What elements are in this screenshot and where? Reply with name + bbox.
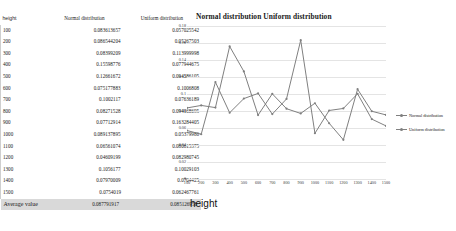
y-tick-label: 0.16	[179, 41, 186, 45]
x-tick-label: 500	[241, 181, 247, 185]
series-point	[371, 110, 373, 112]
legend-swatch-icon	[396, 127, 407, 132]
column-header-normal: Normal distribution	[47, 13, 124, 25]
row-height-value: 700	[1, 94, 47, 106]
x-tick-label: 200	[198, 181, 204, 185]
row-height-value: 400	[1, 59, 47, 71]
series-point	[300, 39, 302, 41]
series-point	[328, 109, 330, 111]
plot-area: 0.180.160.140.120.10.080.060.040.020 100…	[170, 26, 386, 194]
row-normal-value: 0.08271528	[47, 106, 124, 118]
x-axis-title: height	[190, 198, 217, 209]
row-normal-value: 0.07712914	[47, 117, 124, 129]
series-point	[300, 112, 302, 114]
series-point	[328, 122, 330, 124]
series-point	[356, 88, 358, 90]
row-normal-value: 0.075177883	[47, 83, 124, 95]
x-tick-label: 700	[269, 181, 275, 185]
row-normal-value: 0.15598776	[47, 59, 124, 71]
column-header-height: height	[1, 13, 47, 25]
plot-grid	[187, 26, 386, 179]
row-height-value: 1400	[1, 175, 47, 187]
row-height-value: 900	[1, 117, 47, 129]
series-line-normal	[187, 46, 386, 139]
legend-label: Normal distribution	[409, 113, 443, 118]
series-point	[342, 107, 344, 109]
y-axis-labels: 0.180.160.140.120.10.080.060.040.020	[170, 26, 186, 179]
series-point	[385, 114, 386, 116]
series-point	[356, 93, 358, 95]
chart-legend: Normal distributionUniform distribution	[396, 110, 456, 138]
row-normal-value: 0.06561074	[47, 141, 124, 153]
row-height-value: 1300	[1, 164, 47, 176]
row-height-value: 1100	[1, 141, 47, 153]
series-line-uniform	[187, 40, 386, 134]
x-tick-label: 100	[184, 181, 190, 185]
row-normal-value: 0.086544204	[47, 36, 124, 48]
row-height-value: 800	[1, 106, 47, 118]
average-label: Average value	[1, 199, 47, 211]
row-height-value: 100	[1, 25, 47, 37]
row-height-value: 1500	[1, 187, 47, 199]
x-tick-label: 400	[227, 181, 233, 185]
series-point	[314, 102, 316, 104]
y-tick-label: 0.14	[179, 58, 186, 62]
legend-item[interactable]: Normal distribution	[396, 110, 456, 121]
legend-label: Uniform distribution	[409, 127, 445, 132]
x-tick-label: 1300	[353, 181, 361, 185]
x-tick-label: 1200	[339, 181, 347, 185]
row-height-value: 1200	[1, 152, 47, 164]
x-tick-label: 300	[212, 181, 218, 185]
chart-title: Normal distribution Uniform distribution	[196, 12, 332, 21]
row-height-value: 600	[1, 83, 47, 95]
spreadsheet-chart-view: height Normal distribution Uniform distr…	[0, 0, 456, 231]
average-normal-value: 0.087791917	[47, 199, 124, 211]
row-height-value: 500	[1, 71, 47, 83]
x-tick-label: 1400	[368, 181, 376, 185]
series-point	[200, 104, 202, 106]
row-normal-value: 0.04609199	[47, 152, 124, 164]
series-point	[271, 93, 273, 95]
series-point	[243, 70, 245, 72]
series-point	[229, 112, 231, 114]
chart-series-layer	[187, 26, 386, 179]
y-tick-label: 0.08	[179, 109, 186, 113]
row-normal-value: 0.1002117	[47, 94, 124, 106]
series-point	[285, 98, 287, 100]
series-point	[229, 45, 231, 47]
x-tick-label: 1500	[382, 181, 390, 185]
row-normal-value: 0.1056177	[47, 164, 124, 176]
y-tick-label: 0.02	[179, 160, 186, 164]
row-normal-value: 0.0754019	[47, 187, 124, 199]
series-point	[187, 129, 188, 131]
x-tick-label: 1000	[311, 181, 319, 185]
row-normal-value: 0.12661672	[47, 71, 124, 83]
row-height-value: 200	[1, 36, 47, 48]
line-chart-panel: Normal distribution Uniform distribution…	[160, 10, 456, 225]
series-point	[342, 139, 344, 141]
x-axis-labels: 1002003004005006007008009001000110012001…	[187, 181, 386, 191]
series-point	[285, 108, 287, 110]
legend-item[interactable]: Uniform distribution	[396, 124, 456, 135]
row-normal-value: 0.07970009	[47, 175, 124, 187]
x-tick-label: 1100	[325, 181, 333, 185]
row-normal-value: 0.083613657	[47, 25, 124, 37]
series-point	[214, 81, 216, 83]
row-normal-value: 0.08399209	[47, 48, 124, 60]
x-tick-label: 800	[283, 181, 289, 185]
legend-swatch-icon	[396, 113, 407, 118]
row-height-value: 1000	[1, 129, 47, 141]
y-tick-label: 0.06	[179, 126, 186, 130]
series-point	[243, 98, 245, 100]
series-point	[187, 107, 188, 109]
y-tick-label: 0.18	[179, 24, 186, 28]
y-tick-label: 0.04	[179, 143, 186, 147]
series-point	[314, 132, 316, 134]
x-tick-label: 900	[298, 181, 304, 185]
y-tick-label: 0.1	[181, 92, 186, 96]
row-normal-value: 0.089137895	[47, 129, 124, 141]
series-point	[371, 118, 373, 120]
series-point	[200, 133, 202, 135]
row-height-value: 300	[1, 48, 47, 60]
series-point	[271, 113, 273, 115]
